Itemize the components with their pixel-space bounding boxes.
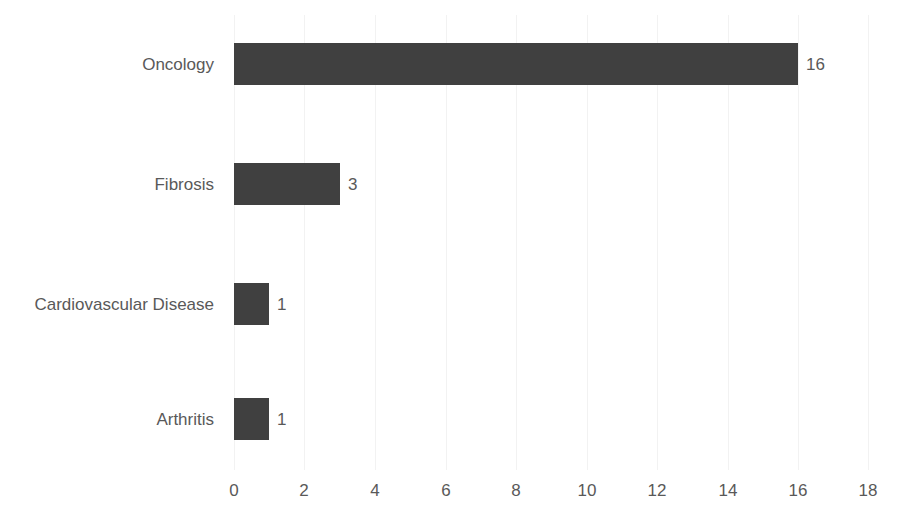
- x-tick-label: 18: [859, 482, 878, 499]
- x-tick-label: 10: [578, 482, 597, 499]
- category-label-arthritis: Arthritis: [156, 398, 214, 440]
- x-tick-label: 12: [648, 482, 667, 499]
- bar-cardiovascular-disease[interactable]: [234, 283, 269, 325]
- plot-area: 16 3 1 1: [234, 15, 869, 470]
- bar-fibrosis[interactable]: [234, 163, 340, 205]
- bar-oncology[interactable]: [234, 43, 798, 85]
- x-tick-label: 6: [441, 482, 450, 499]
- bar-row: 16: [234, 43, 869, 85]
- bar-value-label: 1: [277, 411, 286, 428]
- bar-arthritis[interactable]: [234, 398, 269, 440]
- x-tick-label: 2: [299, 482, 308, 499]
- value-axis: 0 2 4 6 8 10 12 14 16 18: [234, 482, 869, 512]
- bar-value-label: 16: [806, 56, 825, 73]
- x-tick-label: 16: [789, 482, 808, 499]
- category-label-cardiovascular-disease: Cardiovascular Disease: [34, 283, 214, 325]
- x-tick-label: 0: [229, 482, 238, 499]
- bar-row: 1: [234, 283, 869, 325]
- x-tick-label: 14: [719, 482, 738, 499]
- bar-row: 1: [234, 398, 869, 440]
- x-tick-label: 4: [370, 482, 379, 499]
- x-tick-label: 8: [511, 482, 520, 499]
- bar-value-label: 1: [277, 296, 286, 313]
- category-label-oncology: Oncology: [142, 43, 214, 85]
- bar-value-label: 3: [348, 176, 357, 193]
- bar-chart: 16 3 1 1 Oncology Fibrosis Cardiovascula…: [0, 0, 898, 527]
- category-axis: Oncology Fibrosis Cardiovascular Disease…: [0, 15, 224, 470]
- category-label-fibrosis: Fibrosis: [154, 163, 214, 205]
- bar-row: 3: [234, 163, 869, 205]
